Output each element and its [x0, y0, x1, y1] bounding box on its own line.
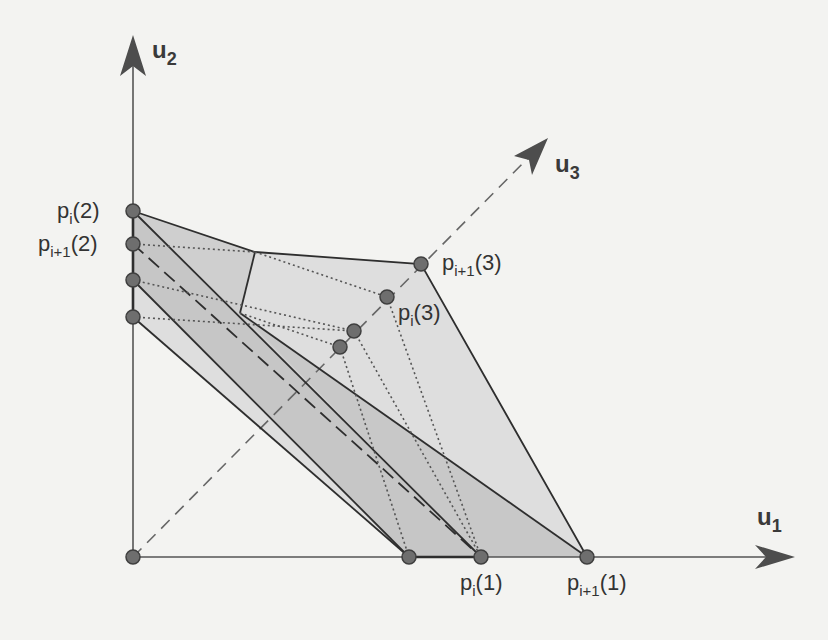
point-u1-a: [402, 550, 416, 564]
label-pi1-1: pi+1(1): [567, 570, 627, 599]
point-pi1-3: [414, 257, 428, 271]
simplex-diagram: u2 u3 u1 pi(2) pi+1(2) pi+1(3) pi(3) pi(…: [0, 0, 828, 640]
u3-arrowhead-icon: [514, 138, 548, 175]
point-pi-2: [126, 204, 140, 218]
point-u3-b: [333, 340, 347, 354]
label-pi-3: pi(3): [398, 300, 440, 329]
label-pi-2: pi(2): [57, 198, 99, 227]
u3-axis-label: u3: [555, 150, 580, 183]
point-u3-a: [347, 324, 361, 338]
label-pi1-3: pi+1(3): [442, 250, 502, 279]
point-pi-1: [474, 550, 488, 564]
label-pi-1: pi(1): [460, 570, 502, 599]
point-pi-3: [380, 290, 394, 304]
point-origin: [126, 550, 140, 564]
u2-axis-label: u2: [152, 36, 177, 69]
label-pi1-2: pi+1(2): [38, 231, 98, 260]
point-u2-b: [126, 310, 140, 324]
point-pi1-2: [126, 237, 140, 251]
point-pi1-1: [580, 550, 594, 564]
u1-axis-label: u1: [757, 503, 782, 536]
point-u2-a: [126, 273, 140, 287]
shaded-regions: [133, 211, 587, 557]
